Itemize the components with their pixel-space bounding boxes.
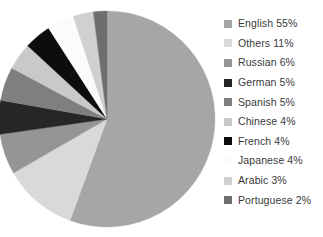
legend-swatch-icon xyxy=(224,79,232,87)
legend-item[interactable]: Chinese 4% xyxy=(224,112,323,132)
pie-chart-plot-area: English 55%Others 11%Russian 6%German 5%… xyxy=(0,0,216,237)
legend-item[interactable]: Portuguese 2% xyxy=(224,190,323,210)
legend-item[interactable]: Russian 6% xyxy=(224,53,323,73)
pie-chart-svg: English 55%Others 11%Russian 6%German 5%… xyxy=(0,0,216,237)
legend-item-label: Japanese 4% xyxy=(238,155,303,166)
legend-item-label: Russian 6% xyxy=(238,57,295,68)
legend-item-label: Others 11% xyxy=(238,38,294,49)
legend-item-label: German 5% xyxy=(238,77,295,88)
legend-item-label: English 55% xyxy=(238,18,297,29)
legend-swatch-icon xyxy=(224,98,232,106)
legend-swatch-icon xyxy=(224,20,232,28)
legend-item[interactable]: Arabic 3% xyxy=(224,171,323,191)
legend-swatch-icon xyxy=(224,39,232,47)
legend-item-label: Chinese 4% xyxy=(238,116,296,127)
legend-swatch-icon xyxy=(224,157,232,165)
pie-chart-figure: English 55%Others 11%Russian 6%German 5%… xyxy=(0,0,323,237)
legend-swatch-icon xyxy=(224,196,232,204)
legend-item[interactable]: French 4% xyxy=(224,132,323,152)
legend-item[interactable]: Spanish 5% xyxy=(224,92,323,112)
legend-swatch-icon xyxy=(224,177,232,185)
legend-swatch-icon xyxy=(224,59,232,67)
pie-slice-group: English 55%Others 11%Russian 6%German 5%… xyxy=(0,11,215,227)
legend-item[interactable]: English 55% xyxy=(224,14,323,34)
legend-item-label: Spanish 5% xyxy=(238,97,295,108)
legend-item[interactable]: Others 11% xyxy=(224,34,323,54)
legend-item[interactable]: Japanese 4% xyxy=(224,151,323,171)
legend-item-label: Arabic 3% xyxy=(238,175,287,186)
chart-legend: English 55%Others 11%Russian 6%German 5%… xyxy=(224,14,323,210)
legend-item-label: French 4% xyxy=(238,136,290,147)
legend-item[interactable]: German 5% xyxy=(224,73,323,93)
legend-swatch-icon xyxy=(224,118,232,126)
legend-swatch-icon xyxy=(224,137,232,145)
legend-item-label: Portuguese 2% xyxy=(238,195,311,206)
